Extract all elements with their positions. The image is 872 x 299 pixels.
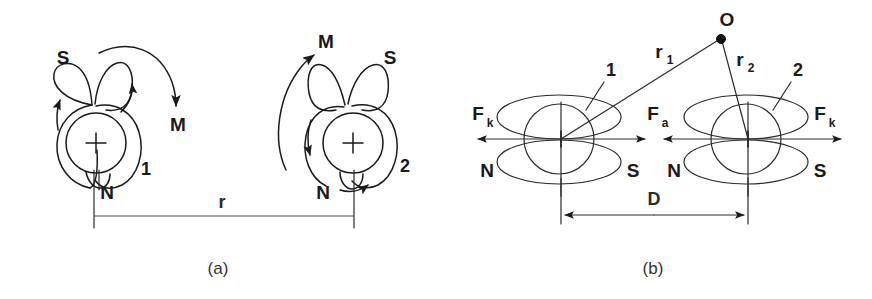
- panel-a-dipole-right: S N 2 M: [279, 31, 410, 228]
- force-label-fk-right-sub: k: [829, 116, 836, 130]
- panel-b-dimension-d: D: [561, 178, 748, 224]
- observation-point-dot: [717, 35, 726, 44]
- dipole-index-label-1: 1: [141, 159, 151, 179]
- figure-root: S N 1 M: [0, 0, 872, 299]
- moment-arc-left: [99, 47, 176, 106]
- distance-label-r1: r 1: [655, 41, 673, 67]
- panel-caption-b: (b): [643, 259, 664, 278]
- field-loop-upper-right: [95, 63, 132, 111]
- pole-label-s-left: S: [57, 47, 70, 68]
- dimension-label-r: r: [218, 192, 225, 212]
- dipole-index-label-2: 2: [400, 156, 410, 176]
- force-label-fk-left: F k: [472, 103, 493, 130]
- distance-label-r2: r 2: [736, 49, 754, 75]
- field-loop-outer-right-2: [352, 105, 397, 188]
- panel-caption-a: (a): [208, 259, 229, 278]
- pole-label-s-b1: S: [627, 160, 640, 181]
- leader-line-1: [586, 82, 604, 110]
- field-ellipse-upper-1: [497, 95, 621, 139]
- panel-a: S N 1 M: [54, 31, 410, 278]
- distance-line-r2: [722, 41, 748, 139]
- field-loop-upper-left-2: [308, 65, 345, 111]
- diagram-canvas: S N 1 M: [0, 0, 872, 299]
- field-ellipse-lower-1: [497, 140, 621, 184]
- moment-label-m-left: M: [170, 114, 186, 135]
- observation-point-label-o: O: [720, 9, 735, 30]
- panel-b-dipole-left: 1 N S: [480, 60, 639, 196]
- panel-b-dipole-right: 2 N S: [667, 60, 826, 196]
- force-label-fk-left-sub: k: [487, 116, 494, 130]
- field-direction-arrow-left-2: [308, 120, 311, 155]
- force-label-fa-sub: a: [662, 116, 669, 130]
- pole-label-n-b1: N: [480, 160, 494, 181]
- dimension-label-d: D: [648, 189, 661, 209]
- plus-sign-icon-2: [343, 133, 363, 153]
- pole-label-n-right: N: [316, 182, 330, 203]
- force-label-fa: F a: [647, 103, 668, 130]
- force-label-fk-right-main: F: [814, 103, 826, 124]
- leader-line-2: [773, 82, 791, 110]
- field-ellipse-lower-2: [684, 140, 808, 184]
- field-loop-upper-right-2: [348, 65, 388, 111]
- panel-a-dimension-r: r: [94, 192, 354, 216]
- field-loop-right-outer: [95, 105, 141, 188]
- force-label-fk-left-main: F: [472, 103, 484, 124]
- plus-sign-icon: [86, 133, 106, 153]
- distance-label-r2-main: r: [736, 49, 744, 70]
- pole-label-n-b2: N: [667, 160, 681, 181]
- moment-label-m-right: M: [318, 31, 334, 52]
- panel-b: 1 N S 2 N S: [472, 9, 841, 278]
- pole-label-s-b2: S: [814, 160, 827, 181]
- moment-arc-right: [279, 55, 314, 170]
- field-direction-arrow-left: [57, 100, 60, 130]
- pole-label-n-left: N: [100, 182, 114, 203]
- force-label-fa-main: F: [647, 103, 659, 124]
- distance-line-r1: [561, 39, 720, 139]
- panel-a-dipole-left: S N 1 M: [54, 47, 186, 228]
- dipole-index-label-b2: 2: [793, 60, 803, 80]
- dipole-index-label-b1: 1: [606, 60, 616, 80]
- pole-label-s-right: S: [384, 47, 397, 68]
- distance-label-r1-sub: 1: [667, 53, 674, 67]
- distance-label-r1-main: r: [655, 41, 663, 62]
- force-label-fk-right: F k: [814, 103, 835, 130]
- distance-label-r2-sub: 2: [748, 61, 755, 75]
- field-loop-left-outer-2: [305, 107, 344, 186]
- field-loop-upper-left: [54, 63, 92, 105]
